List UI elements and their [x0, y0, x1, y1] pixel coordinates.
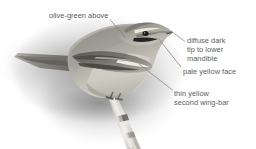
bird-eye — [142, 31, 148, 36]
annotation-diffuse-dark-tip-to-lower-mandible: diffuse dark tip to lower mandible — [187, 36, 226, 64]
bird-illustration-plate: olive-green above diffuse dark tip to lo… — [0, 0, 256, 149]
annotation-thin-yellow-second-wing-bar: thin yellow second wing-bar — [174, 89, 229, 107]
annotation-olive-green-above: olive-green above — [49, 11, 108, 20]
annotation-pale-yellow-face: pale yellow face — [183, 67, 236, 76]
